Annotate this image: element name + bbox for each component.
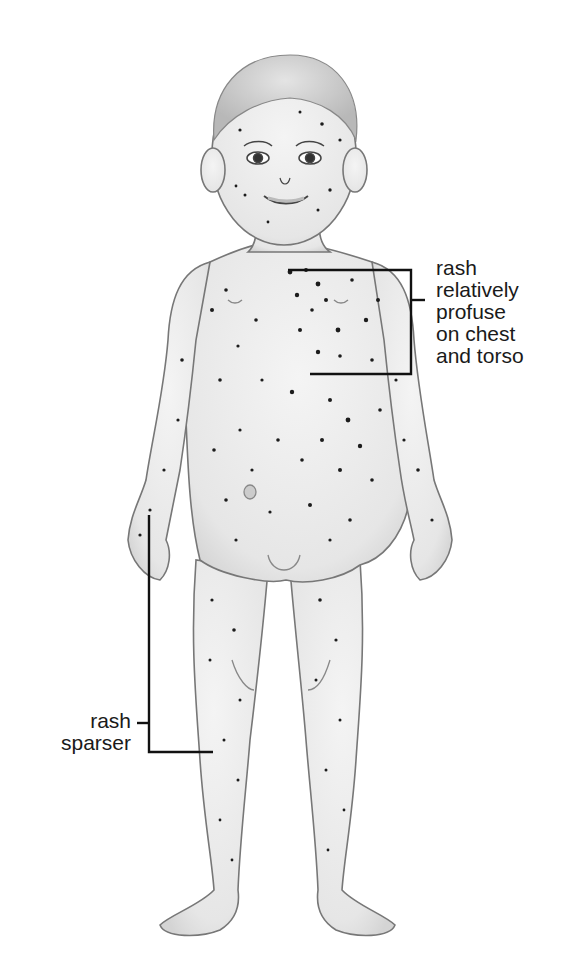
chest-label-line: on chest [436,323,524,345]
chest-label-line: rash [436,257,524,279]
chest-label-line: and torso [436,345,524,367]
child-body [128,65,452,935]
chest-label-line: relatively [436,279,524,301]
child-rash-illustration [0,0,583,967]
right-leg [290,560,395,935]
limb-rash-label: rash sparser [56,710,131,754]
limb-label-line: sparser [56,732,131,754]
left-ear [201,148,225,192]
limb-label-line: rash [56,710,131,732]
chest-rash-label: rash relatively profuse on chest and tor… [436,257,524,367]
left-leg [160,560,268,935]
right-ear [343,148,367,192]
chest-label-line: profuse [436,301,524,323]
